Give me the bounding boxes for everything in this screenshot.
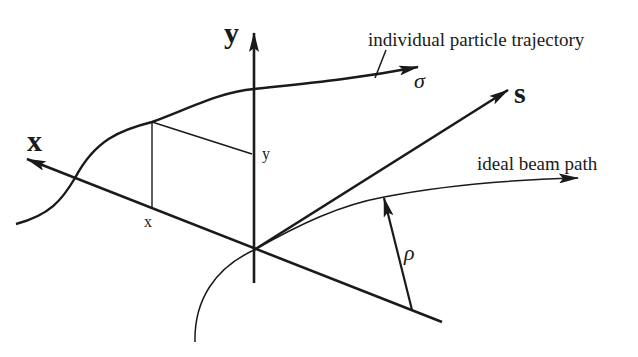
y-projection-line	[152, 122, 252, 154]
particle-trajectory-curve	[16, 67, 418, 224]
x-axis	[27, 159, 442, 322]
trajectory-label: individual particle trajectory	[368, 30, 584, 49]
y-axis-label: y	[224, 18, 239, 48]
beam-path-label: ideal beam path	[477, 154, 597, 173]
rho-symbol: ρ	[404, 242, 415, 264]
sigma-symbol: σ	[414, 70, 425, 92]
ideal-beam-path-curve	[195, 178, 578, 342]
diagram-graphics	[0, 0, 638, 357]
y-projection-label: y	[262, 146, 270, 162]
s-axis	[254, 90, 508, 250]
x-axis-label: x	[27, 126, 42, 156]
x-projection-label: x	[144, 214, 152, 230]
beam-coordinate-diagram: x y s x y individual particle trajectory…	[0, 0, 638, 357]
s-axis-label: s	[514, 78, 526, 108]
